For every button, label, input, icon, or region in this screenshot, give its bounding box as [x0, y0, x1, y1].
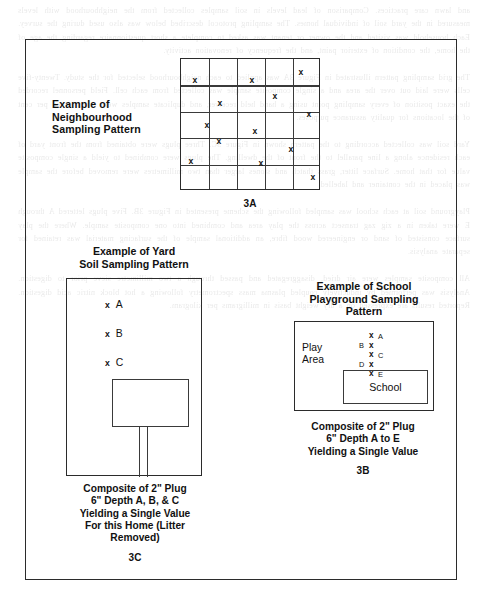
- yard-sample-point-A: xA: [105, 299, 123, 310]
- playground-boundary: PlayArea xAxBxCxDxE School: [294, 321, 434, 411]
- yard-sample-label: B: [116, 328, 123, 339]
- playground-sample-label: A: [378, 332, 383, 341]
- yard-caption-line-3: Yielding a Single Value: [50, 508, 220, 520]
- yard-title-line-1: Example of Yard: [55, 245, 213, 258]
- grid-sample-marker: x: [311, 172, 316, 182]
- neighbourhood-grid: xxxxxxxxxxxxx: [180, 58, 320, 190]
- playground-sample-label: B: [359, 341, 364, 350]
- grid-column-line: [265, 59, 266, 189]
- grid-sample-marker: x: [193, 75, 198, 85]
- grid-sample-marker: x: [218, 98, 223, 108]
- neighbourhood-title-line-2: Neighbourhood: [52, 111, 177, 124]
- grid-sample-marker: x: [205, 120, 210, 130]
- grid-row-line: [181, 112, 319, 113]
- playground-sample-point-D: xD: [350, 360, 398, 370]
- school-caption-line-1: Composite of 2" Plug: [274, 421, 452, 433]
- yard-sample-point-C: xC: [105, 357, 123, 368]
- yard-sample-label: A: [116, 299, 123, 310]
- grid-column-line: [237, 59, 238, 189]
- school-title-line-3: Pattern: [282, 305, 446, 318]
- grid-sample-marker: x: [259, 158, 264, 168]
- school-building-label: School: [369, 381, 401, 393]
- play-area-label-line-2: Area: [302, 354, 324, 366]
- neighbourhood-figure-number: 3A: [180, 198, 320, 209]
- play-area-label-line-1: Play: [302, 342, 324, 354]
- playground-sample-marker: x: [369, 350, 374, 359]
- school-building: School: [343, 370, 428, 404]
- yard-caption-line-1: Composite of 2" Plug: [50, 483, 220, 495]
- school-caption-line-2: 6" Depth A to E: [274, 433, 452, 445]
- walkway: [139, 427, 148, 477]
- grid-sample-marker: x: [299, 67, 304, 77]
- neighbourhood-title-line-1: Example of: [52, 98, 177, 111]
- playground-sample-label: C: [378, 351, 383, 360]
- playground-sample-point-C: xC: [350, 350, 398, 360]
- house-outline: [112, 379, 189, 427]
- school-title: Example of SchoolPlayground SamplingPatt…: [282, 280, 446, 318]
- yard-sample-label: C: [116, 357, 124, 368]
- play-area-label: PlayArea: [302, 342, 324, 366]
- yard-caption-line-2: 6" Depth A, B, & C: [50, 495, 220, 507]
- yard-figure-number: 3C: [50, 552, 220, 563]
- grid-sample-marker: x: [217, 136, 222, 146]
- grid-sample-marker: x: [273, 91, 278, 101]
- yard-sample-marker: x: [105, 329, 110, 339]
- school-caption: Composite of 2" Plug6" Depth A to EYield…: [274, 421, 452, 458]
- playground-sample-point-A: xA: [350, 331, 398, 341]
- playground-sample-label: D: [359, 360, 364, 369]
- yard-sample-marker: x: [105, 358, 110, 368]
- grid-column-line: [293, 59, 294, 189]
- grid-sample-marker: x: [189, 156, 194, 166]
- playground-sample-marker: x: [369, 360, 374, 369]
- yard-caption-line-5: Removed): [50, 532, 220, 544]
- grid-sample-marker: x: [289, 144, 294, 154]
- grid-row-line: [181, 138, 319, 139]
- yard-boundary: xCxBxA: [66, 278, 202, 476]
- neighbourhood-title: Example ofNeighbourhoodSampling Pattern: [52, 98, 177, 136]
- grid-row-line: [181, 85, 319, 86]
- figure-border: Example ofNeighbourhoodSampling Pattern …: [25, 39, 457, 580]
- school-title-line-2: Playground Sampling: [282, 293, 446, 306]
- yard-title: Example of YardSoil Sampling Pattern: [55, 245, 213, 270]
- neighbourhood-title-line-3: Sampling Pattern: [52, 123, 177, 136]
- grid-sample-marker: x: [250, 75, 255, 85]
- yard-caption: Composite of 2" Plug6" Depth A, B, & CYi…: [50, 483, 220, 544]
- playground-sample-marker: x: [369, 341, 374, 350]
- school-caption-line-3: Yielding a Single Value: [274, 446, 452, 458]
- grid-sample-marker: x: [253, 126, 258, 136]
- yard-sample-marker: x: [105, 300, 110, 310]
- grid-row-line: [181, 165, 319, 166]
- playground-sample-marker: x: [369, 331, 374, 340]
- school-figure-number: 3B: [274, 465, 452, 476]
- playground-sample-point-B: xB: [350, 341, 398, 351]
- yard-title-line-2: Soil Sampling Pattern: [55, 258, 213, 271]
- yard-sample-point-B: xB: [105, 328, 123, 339]
- school-title-line-1: Example of School: [282, 280, 446, 293]
- yard-caption-line-4: For this Home (Litter: [50, 520, 220, 532]
- grid-sample-marker: x: [307, 109, 312, 119]
